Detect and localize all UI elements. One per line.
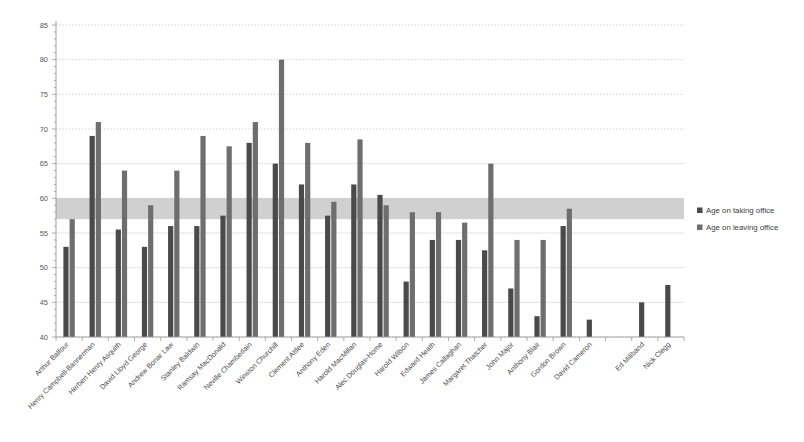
- bar-chart: 40455055606570758085 Arthur BalfourHenry…: [0, 0, 804, 442]
- legend-label: Age on leaving office: [706, 223, 778, 232]
- bar-leaving-office: [279, 60, 284, 337]
- x-category-label: Nick Clegg: [641, 340, 672, 371]
- bar-taking-office: [639, 302, 644, 337]
- bar-leaving-office: [227, 146, 232, 337]
- bar-taking-office: [561, 226, 566, 337]
- y-tick-label: 60: [40, 194, 48, 203]
- bar-leaving-office: [70, 219, 75, 337]
- y-tick-label: 75: [40, 90, 48, 99]
- x-axis-category-labels: Arthur BalfourHenry Campbell-BannermanHe…: [26, 339, 672, 410]
- bar-taking-office: [299, 184, 304, 337]
- y-tick-label: 55: [40, 229, 48, 238]
- bar-leaving-office: [148, 205, 153, 337]
- bar-taking-office: [63, 247, 68, 337]
- chart-canvas: 40455055606570758085 Arthur BalfourHenry…: [0, 0, 804, 442]
- x-category-label: Ramsay MacDonald: [175, 340, 227, 392]
- bar-taking-office: [142, 247, 147, 337]
- bar-leaving-office: [410, 212, 415, 337]
- bar-leaving-office: [200, 136, 205, 337]
- x-axis: [56, 337, 684, 341]
- legend-swatch: [697, 208, 703, 214]
- bar-leaving-office: [253, 122, 258, 337]
- bar-taking-office: [534, 316, 539, 337]
- bar-leaving-office: [541, 240, 546, 337]
- bar-taking-office: [456, 240, 461, 337]
- bar-taking-office: [482, 250, 487, 337]
- bar-leaving-office: [122, 171, 127, 337]
- bar-taking-office: [325, 216, 330, 337]
- bar-taking-office: [194, 226, 199, 337]
- chart-legend: Age on taking officeAge on leaving offic…: [697, 206, 778, 232]
- bar-leaving-office: [305, 143, 310, 337]
- bar-taking-office: [404, 282, 409, 337]
- x-category-label: Neville Chamberlain: [202, 340, 254, 392]
- bar-leaving-office: [488, 164, 493, 337]
- bar-taking-office: [116, 230, 121, 337]
- bar-leaving-office: [96, 122, 101, 337]
- bar-taking-office: [168, 226, 173, 337]
- x-category-label: David Lloyd George: [98, 340, 149, 391]
- y-tick-label: 45: [40, 298, 48, 307]
- bar-leaving-office: [174, 171, 179, 337]
- bar-leaving-office: [462, 223, 467, 337]
- bar-taking-office: [430, 240, 435, 337]
- bar-taking-office: [665, 285, 670, 337]
- bar-taking-office: [247, 143, 252, 337]
- bar-taking-office: [273, 164, 278, 337]
- bar-taking-office: [508, 288, 513, 337]
- bar-taking-office: [587, 320, 592, 337]
- bar-leaving-office: [567, 209, 572, 337]
- bar-taking-office: [351, 184, 356, 337]
- y-axis: [52, 21, 56, 337]
- legend-swatch: [697, 225, 703, 231]
- bar-leaving-office: [331, 202, 336, 337]
- y-tick-label: 40: [40, 333, 48, 342]
- bar-taking-office: [90, 136, 95, 337]
- bar-leaving-office: [384, 205, 389, 337]
- bar-leaving-office: [357, 139, 362, 337]
- x-category-label: Alec Douglas-Home: [333, 340, 385, 392]
- x-category-label: Ed Miliband: [613, 340, 646, 373]
- y-tick-label: 80: [40, 55, 48, 64]
- bar-taking-office: [220, 216, 225, 337]
- bar-leaving-office: [514, 240, 519, 337]
- y-axis-tick-labels: 40455055606570758085: [40, 21, 48, 342]
- bar-taking-office: [377, 195, 382, 337]
- y-tick-label: 70: [40, 125, 48, 134]
- y-tick-label: 85: [40, 21, 48, 30]
- y-tick-label: 50: [40, 263, 48, 272]
- legend-label: Age on taking office: [706, 206, 774, 215]
- x-category-label: Margaret Thatcher: [441, 340, 490, 389]
- x-category-label: Andrew Bonar Law: [126, 339, 176, 389]
- bar-leaving-office: [436, 212, 441, 337]
- y-tick-label: 65: [40, 159, 48, 168]
